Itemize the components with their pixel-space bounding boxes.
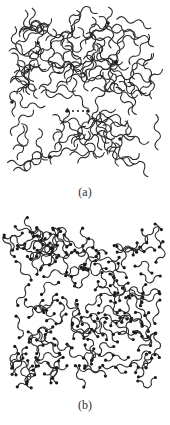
chain-end-dot xyxy=(127,295,130,298)
chain-end-dot xyxy=(56,244,59,247)
chain-end-dot xyxy=(70,251,73,254)
chain-end-dot xyxy=(25,346,28,349)
chain-end-dot xyxy=(84,267,87,270)
chain-end-dot xyxy=(145,353,148,356)
polymer-chain xyxy=(16,316,23,338)
chain-end-dot xyxy=(64,313,67,316)
chain-end-dot xyxy=(42,275,45,278)
chain-end-dot xyxy=(118,317,121,320)
chain-end-dot xyxy=(17,352,20,355)
chain-end-dot xyxy=(98,353,101,356)
chain-end-dot xyxy=(70,275,73,278)
chain-end-dot xyxy=(120,321,123,324)
chain-end-dot xyxy=(56,234,59,237)
chain-end-dot xyxy=(124,371,127,374)
chain-end-dot xyxy=(82,249,85,252)
chain-end-dot xyxy=(29,257,32,260)
chain-end-dot xyxy=(118,256,121,259)
chain-end-dot xyxy=(41,344,44,347)
polymer-chain xyxy=(112,24,138,45)
chain-end-dot xyxy=(161,240,164,243)
chain-end-dot xyxy=(63,233,66,236)
polymer-chain xyxy=(92,83,125,91)
chain-end-dot xyxy=(51,325,54,328)
chain-end-dot xyxy=(27,283,30,286)
chain-end-dot xyxy=(14,225,17,228)
chain-end-dot xyxy=(117,262,120,265)
polymer-chain xyxy=(4,235,25,245)
chain-end-dot xyxy=(13,255,16,258)
chain-end-dot xyxy=(48,155,52,159)
chain-end-dot xyxy=(54,260,57,263)
panel-a: (a) xyxy=(0,0,170,210)
chain-end-dot xyxy=(148,351,151,354)
chain-end-dot xyxy=(113,291,116,294)
chain-end-dot xyxy=(74,282,77,285)
polymer-chain xyxy=(103,365,126,373)
chain-end-dot xyxy=(112,345,115,348)
chain-end-dot xyxy=(93,320,96,323)
chain-end-dot xyxy=(139,272,142,275)
chain-end-dot xyxy=(64,251,67,254)
chain-end-dot xyxy=(103,321,106,324)
chain-end-dot xyxy=(31,364,34,367)
polymer-chain xyxy=(108,30,124,61)
chain-end-dot xyxy=(30,279,33,282)
chain-end-dot xyxy=(159,274,162,277)
chain-end-dot xyxy=(82,386,85,389)
chain-end-dot xyxy=(90,328,93,331)
chain-end-dot xyxy=(143,250,146,253)
polymer-chain xyxy=(41,86,72,99)
polymer-chain xyxy=(85,295,100,312)
chain-end-dot xyxy=(11,365,14,368)
chain-end-dot xyxy=(118,332,121,335)
chain-end-dot xyxy=(86,338,89,341)
chain-end-dot xyxy=(150,272,153,275)
chain-end-dot xyxy=(129,364,132,367)
chain-end-dot xyxy=(92,347,95,350)
polymer-chain xyxy=(53,109,69,141)
chain-end-dot xyxy=(13,345,16,348)
chain-end-dot xyxy=(88,331,91,334)
chain-end-dot xyxy=(58,353,61,356)
chain-end-dot xyxy=(96,335,99,338)
chain-end-dot xyxy=(141,292,144,295)
chain-end-dot xyxy=(73,248,76,251)
chain-end-dot xyxy=(42,309,45,312)
chain-end-dot xyxy=(94,288,97,291)
chain-end-dot xyxy=(115,322,118,325)
chain-end-dot xyxy=(141,228,144,231)
polymer-network-b xyxy=(0,210,170,400)
chain-end-dot xyxy=(28,341,31,344)
chain-end-dot xyxy=(42,243,45,246)
chain-end-dot xyxy=(150,357,153,360)
chain-end-dot xyxy=(145,241,148,244)
chain-end-dot xyxy=(118,299,121,302)
chain-end-dot xyxy=(56,299,59,302)
chain-end-dot xyxy=(109,324,112,327)
chain-end-dot xyxy=(98,366,101,369)
chain-end-dot xyxy=(62,356,65,359)
chain-end-dot xyxy=(36,249,39,252)
caption-b: (b) xyxy=(0,398,170,413)
polymer-chain xyxy=(154,115,160,150)
chain-end-dot xyxy=(95,249,98,252)
chain-end-dot xyxy=(32,235,35,238)
chain-end-dot xyxy=(105,317,108,320)
chain-end-dot xyxy=(36,235,39,238)
chain-end-dot xyxy=(114,366,117,369)
chain-end-dot xyxy=(65,364,68,367)
chain-end-dot xyxy=(71,322,74,325)
polymer-chain xyxy=(20,93,45,107)
chain-end-dot xyxy=(31,369,34,372)
chain-end-dot xyxy=(113,294,116,297)
chain-end-dot xyxy=(134,311,137,314)
chain-end-dot xyxy=(65,343,68,346)
chain-end-dot xyxy=(26,255,29,258)
polymer-chain xyxy=(138,378,156,388)
chain-end-dot xyxy=(123,311,126,314)
chain-end-dot xyxy=(146,335,149,338)
chain-end-dot xyxy=(123,266,126,269)
chain-end-dot xyxy=(116,340,119,343)
chain-end-dot xyxy=(76,325,79,328)
